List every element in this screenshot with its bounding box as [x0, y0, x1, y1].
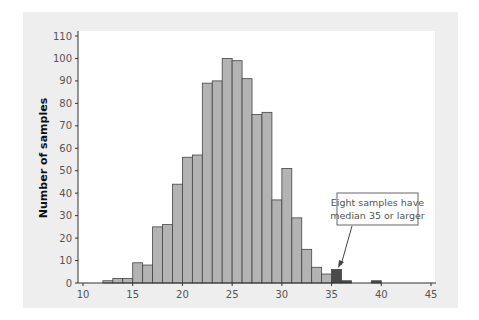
- y-tick-label: 30: [59, 210, 72, 221]
- histogram-bar: [182, 157, 192, 283]
- histogram-bar: [212, 81, 222, 283]
- histogram-chart: 0102030405060708090100110101520253035404…: [0, 0, 479, 320]
- x-tick-label: 10: [77, 289, 90, 300]
- histogram-bar: [282, 168, 292, 283]
- histogram-bar: [312, 267, 322, 283]
- histogram-bar: [262, 112, 272, 283]
- y-tick-label: 0: [66, 278, 72, 289]
- y-tick-label: 40: [59, 188, 72, 199]
- histogram-bar: [153, 227, 163, 283]
- y-tick-label: 70: [59, 120, 72, 131]
- y-tick-label: 10: [59, 255, 72, 266]
- histogram-bar: [133, 263, 143, 283]
- x-tick-label: 25: [226, 289, 239, 300]
- histogram-bar: [143, 265, 153, 283]
- histogram-bar: [113, 279, 123, 283]
- annotation-line-1: Eight samples have: [331, 197, 424, 208]
- histogram-bar: [202, 83, 212, 283]
- x-tick-label: 15: [126, 289, 139, 300]
- histogram-bar: [172, 184, 182, 283]
- x-tick-label: 45: [425, 289, 438, 300]
- y-tick-label: 100: [53, 53, 72, 64]
- y-axis-label: Number of samples: [37, 97, 50, 218]
- y-tick-label: 90: [59, 75, 72, 86]
- y-tick-label: 50: [59, 165, 72, 176]
- histogram-bar: [163, 225, 173, 283]
- histogram-bar: [332, 270, 342, 283]
- y-tick-label: 60: [59, 143, 72, 154]
- histogram-bar: [242, 79, 252, 283]
- histogram-bar: [222, 58, 232, 283]
- histogram-bar: [232, 61, 242, 283]
- histogram-bar: [322, 274, 332, 283]
- y-tick-label: 80: [59, 98, 72, 109]
- histogram-bar: [292, 218, 302, 283]
- y-tick-label: 20: [59, 233, 72, 244]
- annotation-line-2: median 35 or larger: [330, 210, 425, 221]
- histogram-bar: [123, 279, 133, 283]
- x-tick-label: 20: [176, 289, 189, 300]
- histogram-bar: [252, 115, 262, 283]
- x-tick-label: 35: [325, 289, 338, 300]
- histogram-bar: [192, 155, 202, 283]
- histogram-bar: [272, 200, 282, 283]
- x-tick-label: 40: [375, 289, 388, 300]
- y-tick-label: 110: [53, 31, 72, 42]
- histogram-bar: [302, 249, 312, 283]
- x-tick-label: 30: [275, 289, 288, 300]
